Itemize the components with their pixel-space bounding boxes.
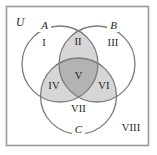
region-label-IV: IV	[45, 81, 63, 92]
set-label-A: A	[40, 20, 49, 31]
region-label-II: II	[71, 37, 85, 48]
set-label-B: B	[109, 20, 118, 31]
venn-diagram-figure: U A B C I II III IV V VI VII VIII	[0, 0, 157, 155]
region-label-VIII: VIII	[119, 123, 143, 134]
region-label-VII: VII	[69, 104, 88, 115]
region-label-III: III	[104, 38, 122, 49]
region-label-VI: VI	[95, 81, 113, 92]
set-label-C: C	[74, 124, 83, 135]
region-label-V: V	[72, 71, 85, 82]
region-label-I: I	[39, 38, 49, 49]
universe-label: U	[16, 17, 24, 29]
